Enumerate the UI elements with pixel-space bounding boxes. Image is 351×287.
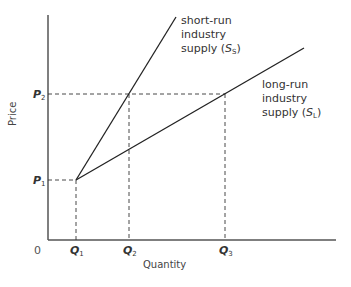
long-run-label-line2: industry bbox=[262, 92, 321, 106]
long-run-label-prefix: supply ( bbox=[262, 106, 306, 119]
long-run-label-line3: supply (SL) bbox=[262, 106, 321, 123]
price-label-p1: P1 bbox=[33, 174, 46, 191]
supply-diagram bbox=[0, 0, 351, 287]
origin-label: 0 bbox=[34, 244, 41, 257]
long-run-symbol: S bbox=[306, 106, 313, 119]
p2-subscript: 2 bbox=[41, 94, 45, 102]
long-run-supply-label: long-run industry supply (SL) bbox=[262, 78, 321, 123]
q2-subscript: 2 bbox=[132, 250, 136, 258]
q2-symbol: Q bbox=[123, 244, 132, 257]
p2-symbol: P bbox=[33, 88, 41, 101]
long-run-close-paren: ) bbox=[317, 106, 321, 119]
quantity-label-q3: Q3 bbox=[219, 244, 233, 261]
q1-symbol: Q bbox=[70, 244, 79, 257]
quantity-label-q1: Q1 bbox=[70, 244, 84, 261]
price-label-p2: P2 bbox=[33, 88, 46, 105]
short-run-label-line2: industry bbox=[181, 28, 241, 42]
short-run-label-prefix: supply ( bbox=[181, 42, 225, 55]
short-run-supply-curve bbox=[76, 17, 176, 180]
long-run-label-line1: long-run bbox=[262, 78, 321, 92]
y-axis-label: Price bbox=[6, 102, 19, 126]
p1-symbol: P bbox=[33, 174, 41, 187]
short-run-close-paren: ) bbox=[236, 42, 240, 55]
short-run-label-line1: short-run bbox=[181, 14, 241, 28]
p1-subscript: 1 bbox=[41, 180, 45, 188]
short-run-symbol: S bbox=[225, 42, 232, 55]
quantity-label-q2: Q2 bbox=[123, 244, 137, 261]
q1-subscript: 1 bbox=[79, 250, 83, 258]
q3-subscript: 3 bbox=[228, 250, 232, 258]
q3-symbol: Q bbox=[219, 244, 228, 257]
short-run-supply-label: short-run industry supply (SS) bbox=[181, 14, 241, 59]
x-axis-label: Quantity bbox=[143, 258, 186, 271]
short-run-label-line3: supply (SS) bbox=[181, 42, 241, 59]
